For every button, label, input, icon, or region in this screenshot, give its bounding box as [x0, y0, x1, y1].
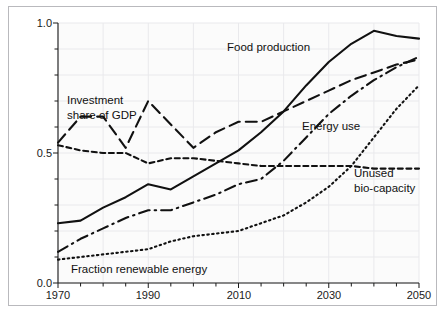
x-tick-label-2030: 2030: [317, 289, 341, 301]
annotation-investment-share-of-gdp-line2: share of GDP: [67, 109, 137, 121]
x-tick-label-1970: 1970: [46, 289, 70, 301]
x-tick-label-1990: 1990: [136, 289, 160, 301]
annotation-unused-bio-capacity-line2: bio-capacity: [354, 182, 416, 194]
annotation-investment-share-of-gdp-line1: Investment: [67, 94, 124, 106]
line-chart: 1.0 0.5 0.0 1970 1990 2010 2030 2050: [9, 7, 436, 305]
chart-frame: 1.0 0.5 0.0 1970 1990 2010 2030 2050: [8, 6, 437, 306]
annotation-food-production: Food production: [227, 41, 310, 53]
annotation-unused-bio-capacity-line1: Unused: [354, 167, 394, 179]
y-tick-label-0-0: 0.0: [37, 277, 52, 289]
annotation-fraction-renewable-energy: Fraction renewable energy: [71, 263, 207, 275]
chart-figure: 1.0 0.5 0.0 1970 1990 2010 2030 2050: [0, 0, 445, 322]
x-tick-label-2010: 2010: [227, 289, 251, 301]
y-tick-label-1-0: 1.0: [37, 17, 52, 29]
annotation-energy-use: Energy use: [302, 120, 360, 132]
y-tick-label-0-5: 0.5: [37, 147, 52, 159]
x-tick-label-2050: 2050: [407, 289, 431, 301]
